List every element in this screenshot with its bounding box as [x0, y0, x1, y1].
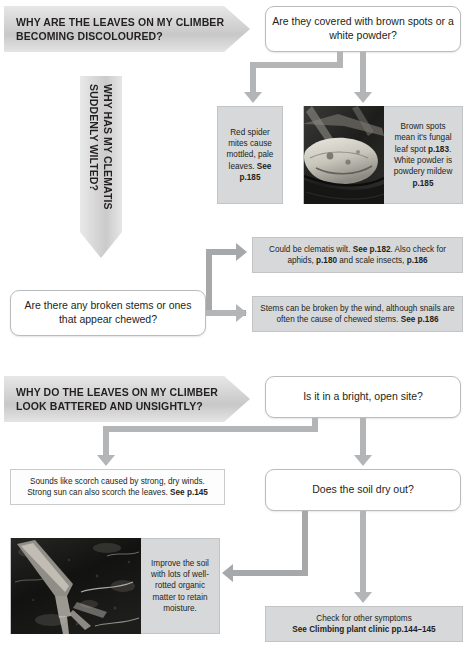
- connector-q2-upper-v: [206, 249, 212, 316]
- answer-clematis-wilt-part1: Could be clematis wilt.: [269, 245, 353, 254]
- arrowhead-to-scorch: [97, 455, 115, 466]
- photo-leaf-fungal-spots-graphic: [304, 106, 384, 204]
- question-soil-dry-out-label: Does the soil dry out?: [312, 483, 414, 497]
- answer-red-spider-mites: Red spider mites cause mottled, pale lea…: [217, 106, 283, 204]
- answer-improve-soil: Improve the soil with lots of well-rotte…: [10, 538, 220, 634]
- answer-scorch-page: See p.145: [170, 488, 208, 497]
- answer-brown-spots-page1: p.183: [428, 145, 449, 154]
- connector-site-left-v: [103, 426, 109, 456]
- question-broken-stems[interactable]: Are there any broken stems or ones that …: [10, 290, 206, 336]
- photo-fork-in-soil-graphic: [11, 538, 141, 634]
- question-soil-dry-out[interactable]: Does the soil dry out?: [265, 469, 461, 511]
- question-bright-open-site[interactable]: Is it in a bright, open site?: [265, 376, 461, 418]
- photo-leaf-fungal-spots: [304, 106, 384, 204]
- answer-brown-spots-page2: p.185: [413, 179, 434, 188]
- connector-soil-left-h: [233, 570, 308, 576]
- answer-brown-spots: Brown spots mean it's fungal leaf spot p…: [303, 106, 463, 204]
- connector-site-left-h: [103, 426, 318, 432]
- connector-q2-upper-h2: [206, 249, 237, 255]
- arrowhead-to-soil-dry: [354, 455, 372, 466]
- answer-wind-sun-scorch-text: Sounds like scorch caused by strong, dry…: [18, 476, 217, 499]
- arrowhead-to-red-spider: [244, 92, 262, 103]
- banner-leaves-battered: WHY DO THE LEAVES ON MY CLIMBER LOOK BAT…: [4, 376, 250, 422]
- arrowhead-to-improve-soil: [222, 564, 233, 582]
- flowchart-canvas: WHY ARE THE LEAVES ON MY CLIMBER BECOMIN…: [0, 0, 467, 649]
- answer-clematis-wilt-page3: p.186: [407, 256, 428, 265]
- connector-site-right-v: [360, 418, 366, 456]
- banner-line-2: BECOMING DISCOLOURED?: [16, 29, 224, 43]
- answer-clematis-wilt: Could be clematis wilt. See p.182. Also …: [252, 237, 463, 273]
- question-bright-open-site-label: Is it in a bright, open site?: [303, 390, 423, 404]
- answer-stems-wind-snails: Stems can be broken by the wind, althoug…: [252, 296, 463, 332]
- answer-wind-sun-scorch: Sounds like scorch caused by strong, dry…: [10, 469, 225, 505]
- question-broken-stems-label: Are there any broken stems or ones that …: [17, 299, 199, 327]
- answer-plant-clinic-text: Check for other symptoms See Climbing pl…: [292, 613, 435, 636]
- answer-clematis-wilt-part3: and scale insects,: [337, 256, 407, 265]
- arrowhead-to-clematis-wilt: [236, 243, 247, 261]
- answer-improve-soil-text: Improve the soil with lots of well-rotte…: [141, 553, 219, 620]
- banner-leaves-battered-text: WHY DO THE LEAVES ON MY CLIMBER LOOK BAT…: [16, 385, 218, 414]
- answer-improve-soil-body: Improve the soil with lots of well-rotte…: [148, 558, 212, 615]
- answer-red-spider-mites-text: Red spider mites cause mottled, pale lea…: [225, 127, 275, 184]
- answer-clematis-wilt-page2: p.180: [316, 256, 337, 265]
- banner-clematis-wilted-text: WHY HAS MY CLEMATIS SUDDENLY WILTED?: [87, 84, 115, 210]
- question-brown-spots-white-powder[interactable]: Are they covered with brown spots or a w…: [265, 6, 461, 52]
- banner2-line-1: WHY DO THE LEAVES ON MY CLIMBER: [16, 385, 218, 399]
- connector-q1-horizontal: [250, 62, 343, 68]
- connector-soil-right-v: [360, 511, 366, 593]
- answer-stems-wind-page: See p.186: [401, 315, 439, 324]
- answer-clematis-wilt-text: Could be clematis wilt. See p.182. Also …: [260, 244, 455, 267]
- connector-q2-lower-h: [206, 310, 237, 316]
- answer-plant-clinic-line2: See Climbing plant clinic pp.144–145: [292, 624, 435, 635]
- answer-plant-clinic-line1: Check for other symptoms: [292, 613, 435, 624]
- connector-q1-right-down: [360, 52, 366, 93]
- banner-clematis-wilted: WHY HAS MY CLEMATIS SUDDENLY WILTED?: [80, 76, 122, 258]
- answer-stems-wind-text: Stems can be broken by the wind, althoug…: [260, 303, 455, 326]
- banner-leaves-discoloured-text: WHY ARE THE LEAVES ON MY CLIMBER BECOMIN…: [16, 15, 224, 44]
- arrowhead-to-brown-spots: [354, 92, 372, 103]
- answer-plant-clinic: Check for other symptoms See Climbing pl…: [265, 606, 463, 642]
- banner2-line-2: LOOK BATTERED AND UNSIGHTLY?: [16, 399, 218, 413]
- question-brown-spots-label: Are they covered with brown spots or a w…: [272, 15, 454, 43]
- connector-soil-left-v: [302, 511, 308, 576]
- banner-leaves-discoloured: WHY ARE THE LEAVES ON MY CLIMBER BECOMIN…: [4, 6, 250, 52]
- arrowhead-to-clinic: [354, 592, 372, 603]
- answer-brown-spots-text: Brown spots mean it's fungal leaf spot p…: [384, 116, 462, 194]
- banner-line-1: WHY ARE THE LEAVES ON MY CLIMBER: [16, 15, 224, 29]
- answer-clematis-wilt-page1: See p.182: [353, 245, 391, 254]
- photo-fork-in-soil: [11, 538, 141, 634]
- connector-q1-left-down: [250, 62, 256, 93]
- arrowhead-to-stems-wind: [236, 304, 247, 322]
